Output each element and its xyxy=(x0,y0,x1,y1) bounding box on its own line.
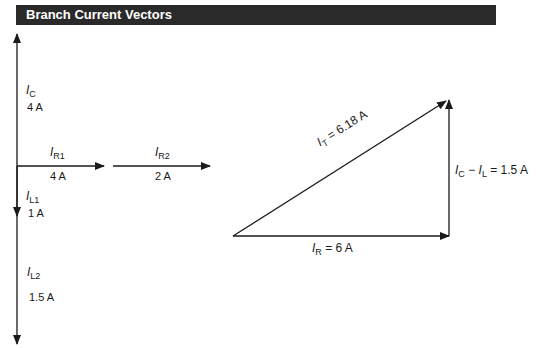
ic-label: IC xyxy=(26,83,36,97)
ir-label: IR = 6 A xyxy=(312,241,353,255)
il1-label: IL1 xyxy=(26,189,39,203)
il2-value: 1.5 A xyxy=(29,291,54,303)
ir2-value: 2 A xyxy=(155,170,171,182)
ir1-label: IR1 xyxy=(50,145,65,159)
il1-value: 1 A xyxy=(28,207,44,219)
ir2-label: IR2 xyxy=(155,145,170,159)
il2-label: IL2 xyxy=(27,265,40,279)
ir1-value: 4 A xyxy=(50,170,66,182)
icl-label: IC − IL = 1.5 A xyxy=(455,163,528,177)
ic-value: 4 A xyxy=(27,101,43,113)
